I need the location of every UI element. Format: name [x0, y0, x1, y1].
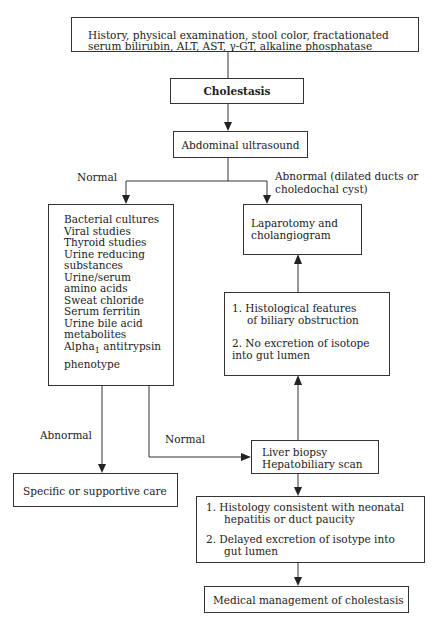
medical-management-box: Medical management of cholestasis: [204, 586, 409, 613]
test-item: Serum ferritin: [64, 306, 173, 318]
biopsy-line2: Hepatobiliary scan: [262, 458, 378, 470]
abdominal-ultrasound-box: Abdominal ultrasound: [173, 131, 308, 158]
label-normal-mid: Normal: [165, 433, 205, 445]
initial-evaluation-line2: serum bilirubin, ALT, AST, γ-GT, alkalin…: [88, 40, 418, 52]
abdominal-ultrasound-label: Abdominal ultrasound: [182, 139, 300, 151]
obstruction-item1-line1: 1. Histological features: [232, 302, 389, 314]
hepatitis-item1-line2: hepatitis or duct paucity: [206, 513, 424, 525]
laparotomy-line1: Laparotomy and: [251, 217, 361, 229]
obstruction-item2-line1: 2. No excretion of isotope: [232, 337, 389, 349]
test-item: substances: [64, 260, 173, 272]
antitrypsin-label: antitrypsin: [103, 340, 161, 352]
laparotomy-line2: cholangiogram: [251, 229, 361, 241]
hepatitis-item1-line1: 1. Histology consistent with neonatal: [206, 501, 424, 513]
hepatitis-item2-line1: 2. Delayed excretion of isotype into: [206, 533, 424, 545]
supportive-care-box: Specific or supportive care: [13, 473, 178, 507]
medical-management-label: Medical management of cholestasis: [213, 594, 404, 606]
test-item: phenotype: [64, 359, 173, 371]
laparotomy-box: Laparotomy and cholangiogram: [243, 204, 362, 255]
label-abnormal-right-2: choledochal cyst): [275, 183, 368, 195]
cholestasis-box: Cholestasis: [170, 78, 304, 104]
biopsy-line1: Liver biopsy: [262, 446, 378, 458]
test-item-alpha1: Alpha1 antitrypsin: [64, 341, 173, 357]
hepatitis-item2-line2: gut lumen: [206, 545, 424, 557]
test-item: Thyroid studies: [64, 237, 173, 249]
label-abnormal-right-1: Abnormal (dilated ducts or: [275, 170, 418, 182]
obstruction-item2-line2: into gut lumen: [232, 349, 389, 361]
test-item: Bacterial cultures: [64, 214, 173, 226]
supportive-care-label: Specific or supportive care: [23, 485, 167, 497]
diagnostic-tests-box: Bacterial cultures Viral studies Thyroid…: [48, 204, 174, 386]
cholestasis-label: Cholestasis: [203, 85, 270, 97]
label-abnormal-left: Abnormal: [40, 429, 92, 441]
test-item: amino acids: [64, 283, 173, 295]
alpha-subscript: 1: [95, 346, 100, 355]
alpha-label: Alpha: [64, 340, 95, 352]
initial-evaluation-box: History, physical examination, stool col…: [71, 17, 419, 52]
neonatal-hepatitis-box: 1. Histology consistent with neonatal he…: [196, 496, 425, 563]
liver-biopsy-box: Liver biopsy Hepatobiliary scan: [251, 440, 379, 474]
obstruction-item1-line2: of biliary obstruction: [232, 314, 389, 326]
biliary-obstruction-box: 1. Histological features of biliary obst…: [224, 292, 390, 376]
label-normal-left: Normal: [77, 171, 117, 183]
